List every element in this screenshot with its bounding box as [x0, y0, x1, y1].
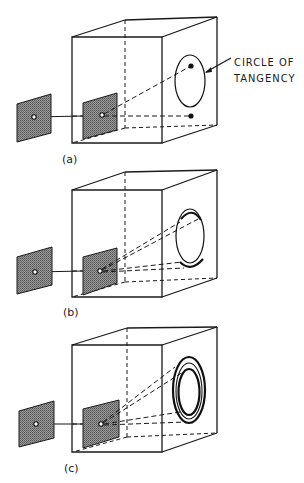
annotation-line-1: CIRCLE OF	[234, 56, 294, 69]
specimen-point	[100, 113, 104, 117]
circle-of-tangency	[175, 55, 205, 107]
diffraction-spot	[188, 63, 193, 68]
panel-caption: (b)	[63, 306, 79, 319]
panel-b: (b)	[17, 170, 217, 319]
panel-caption: (c)	[64, 462, 79, 475]
aperture-hole	[32, 115, 36, 119]
panel-a: CIRCLE OF TANGENCY (a)	[17, 17, 295, 166]
diffraction-diagram: CIRCLE OF TANGENCY (a)	[0, 0, 304, 483]
panel-caption: (a)	[62, 153, 77, 166]
panel-c: (c)	[19, 327, 217, 475]
aperture-hole	[33, 270, 37, 274]
arrow-icon	[205, 67, 212, 73]
aperture-hole	[34, 422, 38, 426]
specimen-point	[98, 269, 102, 273]
direct-beam-spot	[188, 113, 193, 118]
annotation-line-2: TANGENCY	[233, 72, 295, 85]
specimen-point	[99, 422, 103, 426]
circle-of-tangency	[176, 363, 202, 419]
diffraction-ring-inner	[179, 369, 200, 415]
